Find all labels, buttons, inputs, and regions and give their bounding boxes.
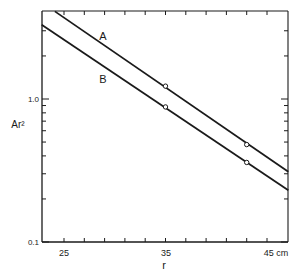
axis-labels: AB253545 cm1.00.1rAr² [11,30,288,271]
x-tick-label-45: 45 cm [264,248,289,258]
axis-ticks [42,11,288,242]
data-point-a [163,84,167,88]
x-tick-label-25: 25 [59,248,69,258]
x-axis-label: r [162,259,166,271]
series-label-a: A [99,30,107,42]
series-lines [42,11,289,190]
data-point-a [245,142,249,146]
chart: AB253545 cm1.00.1rAr² [0,0,295,273]
y-tick-label-1: 1.0 [28,95,40,104]
data-point-b [245,160,249,164]
y-tick-label-0-1: 0.1 [28,238,40,247]
axes-frame [42,11,288,242]
series-label-b: B [99,73,106,85]
series-line-a [55,11,288,171]
data-point-b [163,105,167,109]
x-tick-label-35: 35 [161,248,171,258]
y-axis-label: Ar² [11,119,25,130]
